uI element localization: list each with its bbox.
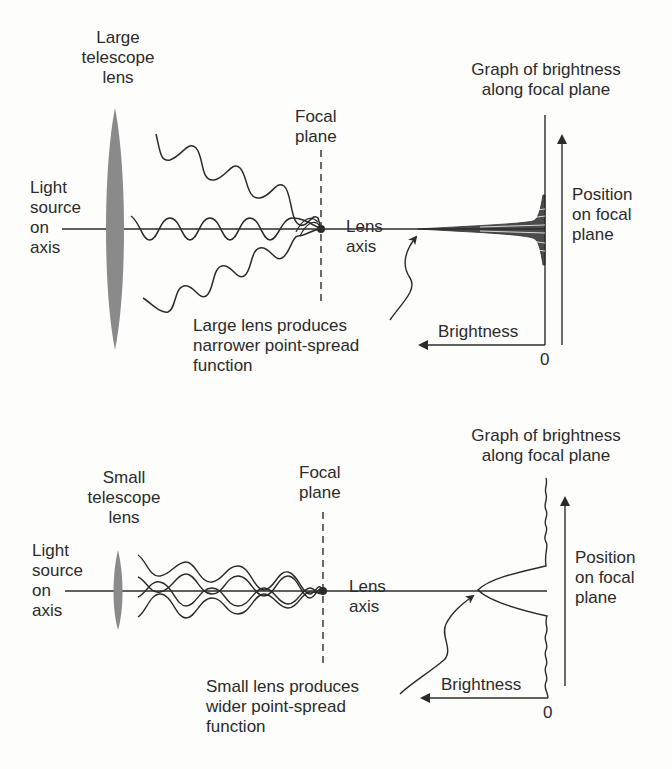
- top-caption-pointer-arrow: [390, 237, 416, 320]
- bottom-converging-waves: [138, 555, 323, 618]
- top-focal-plane-label: Focal plane: [295, 107, 337, 147]
- bottom-lens-label: Small telescope lens: [78, 468, 170, 528]
- bottom-zero-label: 0: [543, 703, 552, 723]
- top-focal-point-dot: [317, 225, 325, 233]
- bottom-focal-plane-label: Focal plane: [299, 463, 341, 503]
- top-graph-title: Graph of brightness along focal plane: [446, 60, 646, 100]
- bottom-brightness-label: Brightness: [441, 675, 521, 695]
- bottom-source-label: Light source on axis: [32, 541, 83, 621]
- top-zero-label: 0: [540, 350, 549, 370]
- bottom-position-label: Position on focal plane: [575, 548, 635, 608]
- top-source-label: Light source on axis: [30, 178, 81, 258]
- bottom-small-lens-icon: [114, 550, 123, 630]
- bottom-focal-point-dot: [319, 587, 327, 595]
- top-caption: Large lens produces narrower point-sprea…: [193, 316, 359, 376]
- top-upper-wave: [156, 134, 321, 229]
- bottom-caption: Small lens produces wider point-spread f…: [206, 677, 359, 737]
- top-brightness-label: Brightness: [438, 322, 518, 342]
- top-large-lens-icon: [106, 108, 124, 350]
- top-position-label: Position on focal plane: [572, 185, 632, 245]
- top-lens-axis-label: Lens axis: [346, 217, 383, 257]
- top-lens-label: Large telescope lens: [72, 28, 164, 88]
- top-narrow-psf-curve: [418, 195, 545, 265]
- bottom-graph-title: Graph of brightness along focal plane: [446, 426, 646, 466]
- bottom-wide-psf-curve: [478, 478, 548, 698]
- bottom-lens-axis-label: Lens axis: [349, 577, 386, 617]
- top-lower-wave: [143, 229, 321, 312]
- top-axial-wave: [131, 216, 321, 240]
